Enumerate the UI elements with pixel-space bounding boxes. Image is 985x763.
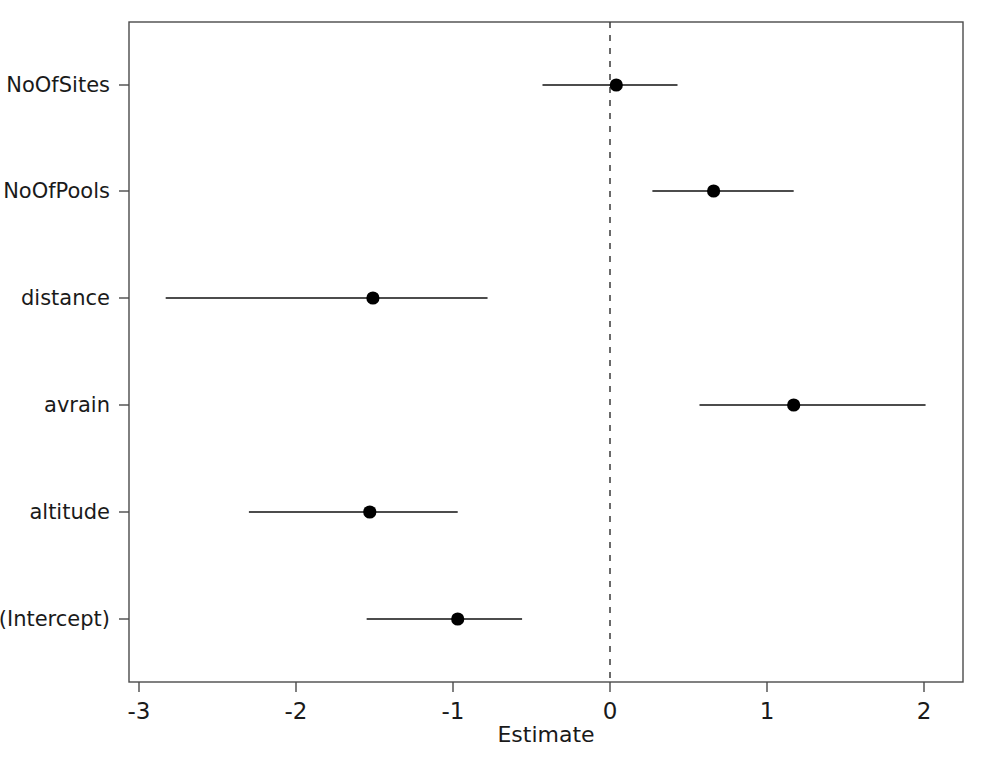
- estimate-point-noofsites: [610, 78, 623, 91]
- estimate-point-avrain: [787, 398, 800, 411]
- x-axis-tick-labels: -3 -2 -1 0 1 2: [128, 698, 932, 724]
- y-tick-label-noofsites: NoOfSites: [6, 73, 110, 97]
- y-tick-label-avrain: avrain: [44, 393, 110, 417]
- x-tick-label--1: -1: [442, 698, 465, 724]
- y-tick-label-intercept: (Intercept): [0, 607, 110, 631]
- x-axis-ticks: [139, 682, 924, 692]
- x-axis-title: Estimate: [497, 722, 594, 747]
- y-tick-label-altitude: altitude: [29, 500, 110, 524]
- y-tick-label-noofpools: NoOfPools: [3, 179, 110, 203]
- estimate-point-noofpools: [707, 184, 720, 197]
- plot-panel-background: [129, 22, 963, 682]
- x-tick-label-1: 1: [760, 698, 775, 724]
- x-tick-label-0: 0: [603, 698, 618, 724]
- estimate-point-intercept: [451, 612, 464, 625]
- y-tick-label-distance: distance: [21, 286, 110, 310]
- estimate-point-distance: [366, 291, 379, 304]
- y-axis-ticks: [119, 85, 129, 619]
- x-tick-label--3: -3: [128, 698, 151, 724]
- y-axis-tick-labels: NoOfSites NoOfPools distance avrain alti…: [0, 73, 110, 631]
- forest-plot-figure: -3 -2 -1 0 1 2 Estimate NoOfSites NoOfPo…: [0, 0, 985, 763]
- estimate-point-altitude: [363, 505, 376, 518]
- plot-canvas: -3 -2 -1 0 1 2 Estimate NoOfSites NoOfPo…: [0, 0, 985, 763]
- x-tick-label--2: -2: [285, 698, 308, 724]
- x-tick-label-2: 2: [917, 698, 932, 724]
